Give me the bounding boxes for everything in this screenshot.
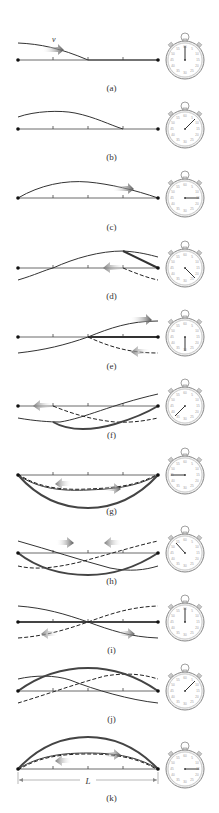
- panel-j: [16, 664, 204, 710]
- panel-label-k: (k): [0, 793, 219, 803]
- length-dimension: L: [18, 772, 158, 786]
- stopwatch-icon: [166, 171, 204, 217]
- panel-label-j: (j): [0, 714, 219, 724]
- panel-b: [16, 102, 204, 148]
- panel-label-e: (e): [0, 361, 219, 371]
- panel-label-c: (c): [0, 222, 219, 232]
- stopwatch-icon: [166, 742, 204, 788]
- panel-label-i: (i): [0, 645, 219, 655]
- stopwatch-icon: [166, 379, 204, 425]
- stopwatch-icon: [166, 664, 204, 710]
- stopwatch-icon: [166, 448, 204, 494]
- panel-i: [16, 595, 204, 641]
- stopwatch-icon: [166, 33, 204, 79]
- panel-label-b: (b): [0, 152, 219, 162]
- panel-d: [16, 241, 204, 287]
- panel-c: [16, 171, 204, 217]
- panel-label-f: (f): [0, 430, 219, 440]
- panel-g: [16, 448, 204, 508]
- length-label: L: [84, 776, 90, 786]
- stopwatch-icon: [166, 526, 204, 572]
- panel-label-h: (h): [0, 576, 219, 586]
- stopwatch-icon: [166, 310, 204, 356]
- panel-h: [16, 526, 204, 575]
- panel-a: v: [16, 33, 204, 79]
- panel-f: [16, 379, 204, 429]
- panel-label-g: (g): [0, 506, 219, 516]
- stopwatch-icon: [166, 595, 204, 641]
- panel-label-a: (a): [0, 83, 219, 93]
- stopwatch-icon: [166, 241, 204, 287]
- standing-wave-figure: 60510 152025 303540 455055 v: [0, 0, 219, 813]
- panel-label-d: (d): [0, 291, 219, 301]
- velocity-label: v: [52, 35, 56, 44]
- stopwatch-icon: [166, 102, 204, 148]
- panel-e: [16, 310, 204, 357]
- panel-k: L: [16, 737, 204, 788]
